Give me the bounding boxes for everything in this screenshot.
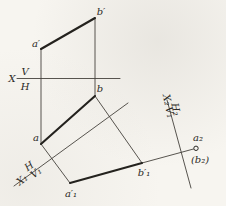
descriptive-geometry-figure: a′b′aba′₁b′₁a₂(b₂)XVHHX₁V₁X₂V₁H₂	[0, 0, 226, 206]
label-x1: X₁	[13, 172, 29, 188]
segment-a-b	[41, 96, 95, 144]
projector-b-b1	[95, 96, 142, 163]
point-a2-circle	[194, 146, 198, 150]
label-axis-x: X	[7, 73, 16, 84]
label-b1-prime: b′₁	[138, 167, 151, 178]
label-a2: a₂	[193, 132, 203, 143]
label-b: b	[97, 83, 103, 94]
label-a-prime: a′	[32, 38, 41, 49]
label-a1-prime: a′₁	[65, 188, 77, 199]
extension-b1-a2	[142, 149, 194, 163]
segment-aprime-bprime	[41, 18, 95, 49]
projection-diagram-canvas: a′b′aba′₁b′₁a₂(b₂)XVHHX₁V₁X₂V₁H₂	[0, 0, 226, 206]
label-b2-paren: (b₂)	[191, 154, 209, 165]
label-a: a	[33, 132, 39, 143]
label-axis-h: H	[20, 81, 30, 92]
label-b-prime: b′	[97, 6, 106, 17]
segment-a1-b1	[70, 163, 142, 183]
label-axis-v: V	[21, 66, 30, 77]
